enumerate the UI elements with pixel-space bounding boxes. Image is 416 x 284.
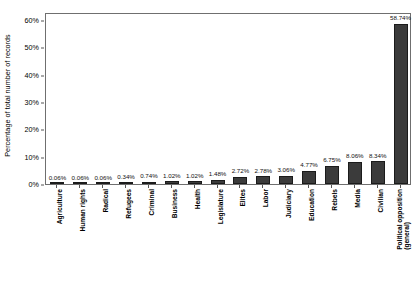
x-tick-mark — [285, 185, 286, 188]
bar[interactable] — [302, 171, 316, 184]
y-tick-mark — [41, 185, 44, 186]
x-axis-category-line: Political opposition — [396, 189, 403, 250]
x-axis-category-line: Elites — [239, 189, 246, 207]
x-label-cell: Health — [182, 189, 205, 284]
bar-column: 58.74% — [389, 14, 412, 184]
x-tick-mark — [377, 185, 378, 188]
x-label-cell: Radical — [91, 189, 114, 284]
y-tick-label: 40% — [25, 72, 39, 79]
x-label-cell: Criminal — [137, 189, 160, 284]
bar-column: 2.72% — [229, 14, 252, 184]
x-axis-category-label: Elites — [239, 189, 246, 207]
bar[interactable] — [279, 176, 293, 184]
x-label-cell: Legislature — [205, 189, 228, 284]
y-tick-mark — [41, 157, 44, 158]
x-axis-category-label: Rebels — [331, 189, 338, 211]
x-tick-mark — [331, 185, 332, 188]
x-tick-mark — [56, 185, 57, 188]
bars-container: 0.06%0.06%0.06%0.34%0.74%1.02%1.02%1.48%… — [46, 14, 410, 184]
x-axis-category-label: Refugees — [125, 189, 132, 219]
x-tick-mark — [194, 185, 195, 188]
x-axis-category-line: Civilian — [377, 189, 384, 212]
y-tick-label: 20% — [25, 127, 39, 134]
x-axis-category-line: Rebels — [331, 189, 338, 211]
x-axis-category-label: Agriculture — [56, 189, 63, 224]
bar-column: 0.06% — [92, 14, 115, 184]
x-label-cell: Human rights — [68, 189, 91, 284]
bar-value-label: 1.48% — [209, 171, 227, 177]
x-axis-category-label: Criminal — [148, 189, 155, 215]
x-label-cell: Business — [159, 189, 182, 284]
bar[interactable] — [233, 177, 247, 184]
x-axis-category-line: Media — [354, 189, 361, 208]
bar-column: 1.48% — [206, 14, 229, 184]
bar[interactable] — [73, 182, 87, 184]
x-label-cell: Rebels — [320, 189, 343, 284]
x-axis-category-label: Human rights — [79, 189, 86, 232]
bar-value-label: 0.06% — [72, 175, 90, 181]
x-axis-category-label: Legislature — [217, 189, 224, 224]
bar[interactable] — [348, 162, 362, 184]
y-tick-label: 60% — [25, 18, 39, 25]
x-label-cell: Judiciary — [274, 189, 297, 284]
y-tick-mark — [41, 48, 44, 49]
bar-value-label: 3.06% — [277, 167, 295, 173]
y-tick-label: 50% — [25, 45, 39, 52]
x-label-cell: Labor — [251, 189, 274, 284]
bar-value-label: 4.77% — [300, 162, 318, 168]
x-axis-category-line: Criminal — [148, 189, 155, 215]
x-axis-category-label: Radical — [102, 189, 109, 212]
plot-area: 0.06%0.06%0.06%0.34%0.74%1.02%1.02%1.48%… — [45, 13, 411, 185]
x-label-cell: Elites — [228, 189, 251, 284]
bar[interactable] — [188, 181, 202, 184]
bar[interactable] — [119, 182, 133, 184]
bar-value-label: 8.34% — [369, 153, 387, 159]
y-tick-label: 30% — [25, 99, 39, 106]
bar-value-label: 0.06% — [94, 175, 112, 181]
bar[interactable] — [96, 182, 110, 184]
y-axis-ticks: 0%10%20%30%40%50%60% — [14, 0, 44, 190]
bar[interactable] — [371, 161, 385, 184]
bar-column: 0.34% — [115, 14, 138, 184]
bar[interactable] — [211, 180, 225, 184]
x-tick-mark — [148, 185, 149, 188]
bar-value-label: 58.74% — [390, 15, 411, 21]
y-tick-mark — [41, 103, 44, 104]
bar-value-label: 2.78% — [255, 168, 273, 174]
bar[interactable] — [325, 166, 339, 184]
bar-value-label: 0.74% — [140, 173, 158, 179]
x-axis-category-line: Education — [308, 189, 315, 221]
bar-column: 8.34% — [366, 14, 389, 184]
bar-column: 0.74% — [138, 14, 161, 184]
bar[interactable] — [50, 182, 64, 184]
bar-chart-figure: Percentage of total number of records 0%… — [0, 0, 416, 284]
bar[interactable] — [256, 176, 270, 184]
bar-column: 6.75% — [321, 14, 344, 184]
y-axis-title-text: Percentage of total number of records — [3, 34, 12, 157]
bar-value-label: 8.06% — [346, 153, 364, 159]
bar[interactable] — [165, 181, 179, 184]
x-label-cell: Media — [342, 189, 365, 284]
x-tick-mark — [354, 185, 355, 188]
bar[interactable] — [142, 182, 156, 184]
x-label-cell: Political opposition(general) — [388, 189, 411, 284]
x-label-cell: Civilian — [365, 189, 388, 284]
x-axis-category-label: Political opposition(general) — [396, 189, 411, 250]
x-axis-category-line: Human rights — [79, 189, 86, 232]
x-axis-category-label: Business — [171, 189, 178, 218]
bar-value-label: 1.02% — [163, 173, 181, 179]
bar[interactable] — [394, 24, 408, 184]
x-tick-mark — [125, 185, 126, 188]
y-tick-mark — [41, 130, 44, 131]
y-tick-label: 0% — [29, 181, 39, 188]
bar-column: 3.06% — [275, 14, 298, 184]
y-tick-label: 10% — [25, 154, 39, 161]
x-tick-mark — [239, 185, 240, 188]
bar-column: 0.06% — [46, 14, 69, 184]
bar-value-label: 6.75% — [323, 157, 341, 163]
x-tick-mark — [262, 185, 263, 188]
bar-column: 2.78% — [252, 14, 275, 184]
x-label-cell: Agriculture — [45, 189, 68, 284]
x-tick-mark — [400, 185, 401, 188]
x-axis-category-label: Labor — [262, 189, 269, 207]
